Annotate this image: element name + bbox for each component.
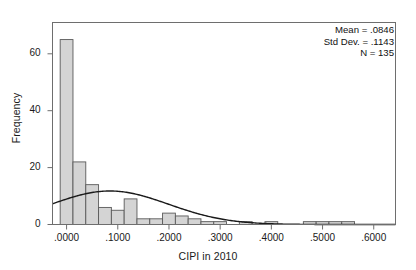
histogram-bar bbox=[99, 207, 112, 224]
histogram-bar bbox=[163, 213, 176, 224]
x-tick-label: .6000 bbox=[344, 232, 404, 243]
histogram-bar bbox=[73, 162, 86, 225]
x-axis-ticks bbox=[67, 225, 374, 230]
histogram-bar bbox=[137, 219, 150, 225]
y-tick-label: 0 bbox=[3, 218, 41, 229]
histogram-bar bbox=[60, 40, 73, 225]
plot-frame bbox=[53, 23, 396, 225]
histogram-figure: Frequency CIPI in 2010 Mean = .0846 Std … bbox=[0, 0, 416, 270]
histogram-bar bbox=[175, 216, 188, 225]
histogram-bar bbox=[111, 210, 124, 224]
histogram-bar bbox=[188, 219, 201, 225]
histogram-bars bbox=[60, 40, 354, 225]
y-tick-label: 40 bbox=[3, 104, 41, 115]
histogram-bar bbox=[124, 199, 137, 225]
plot-area bbox=[0, 0, 416, 270]
histogram-bar bbox=[150, 219, 163, 225]
y-axis-ticks bbox=[48, 54, 53, 225]
y-tick-label: 60 bbox=[3, 47, 41, 58]
y-tick-label: 20 bbox=[3, 161, 41, 172]
histogram-bar bbox=[86, 185, 99, 225]
